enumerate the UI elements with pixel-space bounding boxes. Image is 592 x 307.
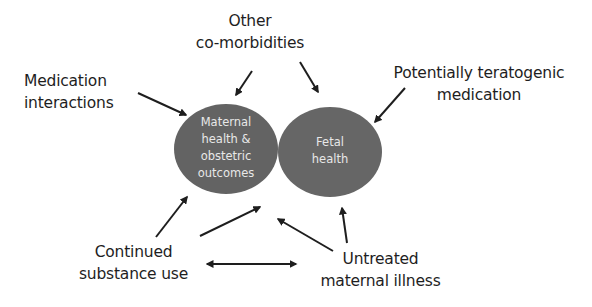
medication-interactions-label: Medication interactions: [24, 70, 114, 114]
arrow-untreated-to-center: [278, 219, 333, 251]
arrow-other-to-maternal: [236, 71, 252, 95]
medication-line-2: interactions: [24, 92, 114, 114]
substance-line-2: substance use: [66, 263, 201, 285]
maternal-line-4: outcomes: [176, 165, 276, 182]
continued-substance-use-label: Continued substance use: [66, 241, 201, 285]
other-line-2: co-morbidities: [190, 32, 310, 54]
other-line-1: Other: [190, 10, 310, 32]
fetal-line-2: health: [280, 151, 380, 168]
fetal-line-1: Fetal: [280, 134, 380, 151]
potentially-teratogenic-label: Potentially teratogenic medication: [374, 62, 584, 106]
arrow-other-to-fetal: [300, 62, 318, 92]
fetal-health-label: Fetal health: [280, 134, 380, 168]
untreated-maternal-illness-label: Untreated maternal illness: [313, 248, 448, 292]
maternal-health-label: Maternal health & obstetric outcomes: [176, 114, 276, 182]
untreated-line-1: Untreated: [313, 248, 448, 270]
arrow-substance-to-maternal: [156, 197, 187, 237]
substance-line-1: Continued: [66, 241, 201, 263]
teratogenic-line-2: medication: [374, 84, 584, 106]
maternal-line-1: Maternal: [176, 114, 276, 131]
teratogenic-line-1: Potentially teratogenic: [374, 62, 584, 84]
maternal-line-3: obstetric: [176, 148, 276, 165]
maternal-line-2: health &: [176, 131, 276, 148]
untreated-line-2: maternal illness: [313, 270, 448, 292]
arrow-substance-to-center: [200, 207, 260, 236]
other-comorbidities-label: Other co-morbidities: [190, 10, 310, 54]
medication-line-1: Medication: [24, 70, 114, 92]
arrow-medication-to-maternal: [138, 93, 186, 115]
arrow-untreated-to-fetal: [342, 208, 347, 243]
